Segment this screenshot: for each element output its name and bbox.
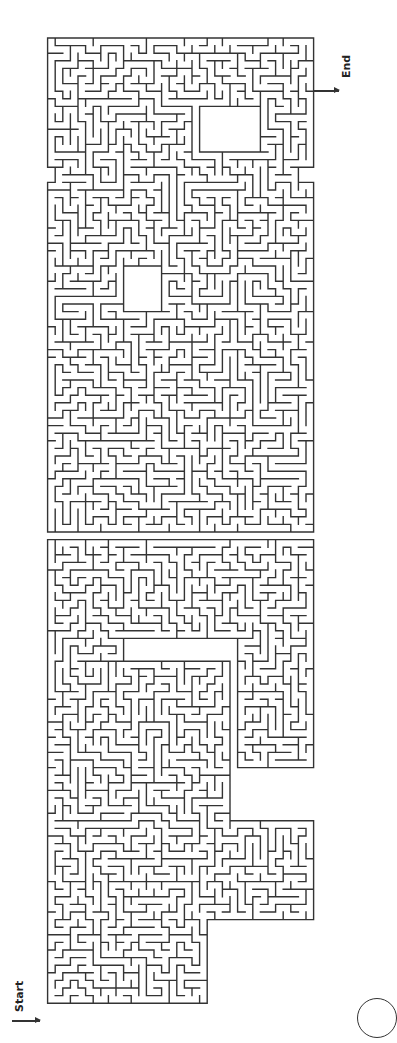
start-arrow-icon [12, 1020, 40, 1022]
page-number-badge [357, 998, 397, 1038]
end-arrow-icon [313, 90, 339, 92]
start-label: Start [13, 981, 26, 1012]
end-label: End [340, 55, 353, 78]
maze-walls [48, 38, 314, 1003]
